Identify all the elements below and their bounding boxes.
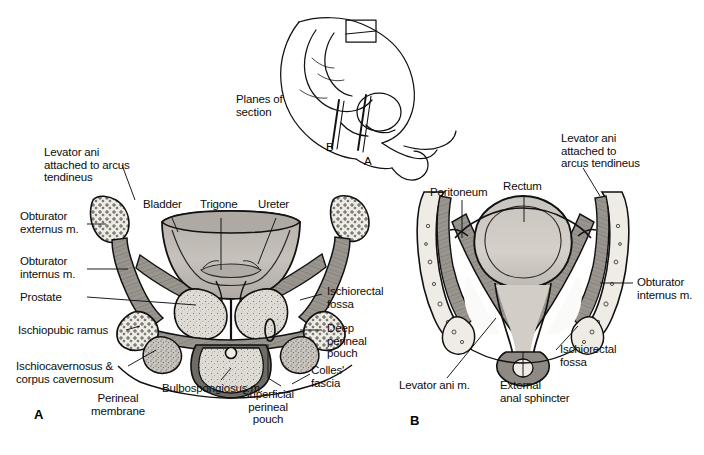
label-ischiocavernosus-corpus-cavernosum: Ischiocavernosus & corpus cavernosum (16, 360, 114, 385)
plane-marker-a: A (364, 155, 372, 167)
label-ischiopubic-ramus: Ischiopubic ramus (18, 324, 108, 337)
label-levator-ani-arcus-tendineus: Levator ani attached to arcus tendineus (44, 146, 130, 184)
label-superficial-perineal-pouch: Superficial perineal pouch (228, 388, 308, 426)
figure-page: Planes of section B A Levator ani attach… (0, 0, 704, 455)
label-colles-fascia: Colles' fascia (311, 364, 344, 389)
label-bladder: Bladder (143, 198, 182, 211)
corpus-cavernosum-left (143, 337, 181, 374)
colles-fascia-line-left (118, 366, 140, 382)
label-external-anal-sphincter: External anal sphincter (500, 379, 570, 404)
label-obturator-internus-b: Obturator internus m. (637, 276, 692, 301)
bone-right-upper (331, 196, 369, 242)
label-ischiorectal-fossa-b: Ischiorectal fossa (560, 343, 616, 368)
label-obturator-internus: Obturator internus m. (20, 255, 75, 280)
label-obturator-externus: Obturator externus m. (20, 210, 78, 235)
label-rectum: Rectum (503, 180, 542, 193)
bulbar-urethra (226, 348, 237, 359)
label-levator-ani-arcus-tendineus-b: Levator ani attached to arcus tendineus (561, 132, 640, 170)
label-ureter: Ureter (258, 198, 289, 211)
label-peritoneum: Peritoneum (430, 186, 487, 199)
label-levator-ani-m: Levator ani m. (399, 379, 470, 392)
panel-letter-b: B (410, 413, 419, 428)
panel-letter-a: A (34, 407, 43, 422)
plane-marker-b: B (326, 141, 334, 153)
label-perineal-membrane: Perineal membrane (78, 392, 158, 417)
rectum-ampulla (474, 196, 571, 288)
inset-title: Planes of section (236, 93, 283, 118)
label-ischiorectal-fossa-a: Ischiorectal fossa (327, 285, 383, 310)
label-prostate: Prostate (20, 291, 62, 304)
label-trigone: Trigone (200, 198, 238, 211)
bladder-cut-rim (162, 211, 300, 233)
bone-left-upper (91, 196, 129, 242)
anatomy-illustration (0, 0, 704, 455)
label-deep-perineal-pouch: Deep perineal pouch (327, 322, 367, 360)
